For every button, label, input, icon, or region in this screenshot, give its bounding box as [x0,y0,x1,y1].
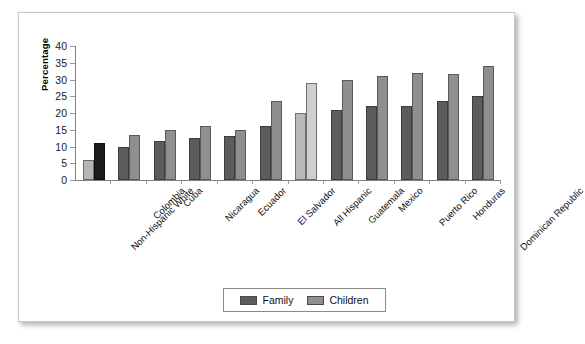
x-axis-tick [146,180,147,184]
y-axis-tick [70,63,75,64]
x-axis-tick [181,180,182,184]
x-axis-label: Puerto Rico [437,185,480,228]
y-axis-tick [70,46,75,47]
y-axis-tick-label: 20 [55,107,67,119]
y-axis-title: Percentage [39,38,50,91]
x-axis-tick [323,180,324,184]
y-axis-tick-label: 5 [61,157,67,169]
bar-children [271,101,282,180]
bar-family [189,138,200,180]
bar-group [182,46,217,180]
y-axis-tick [70,80,75,81]
bar-children [165,130,176,180]
x-axis-tick [500,180,501,184]
bar-children [129,135,140,180]
y-axis-tick-label: 15 [55,124,67,136]
bar-children [200,126,211,180]
x-axis-tick [110,180,111,184]
bar-children [412,73,423,180]
family-swatch-icon [240,296,257,305]
bar-group [218,46,253,180]
y-axis-tick-label: 0 [61,174,67,186]
bar-family [366,106,377,180]
bar-children [483,66,494,180]
x-axis-tick [394,180,395,184]
y-axis-tick-label: 10 [55,141,67,153]
bar-group [111,46,146,180]
bar-children [342,80,353,181]
x-axis-tick [358,180,359,184]
bar-group [76,46,111,180]
bar-children [94,143,105,180]
y-axis-tick-label: 25 [55,90,67,102]
bar-children [306,83,317,180]
y-axis-tick [70,113,75,114]
bar-family [437,101,448,180]
bar-family [154,141,165,180]
y-axis-tick [70,163,75,164]
children-swatch-icon [307,296,324,305]
bar-group [395,46,430,180]
bar-children [377,76,388,180]
x-axis-label: All Hispanic [331,185,374,228]
y-axis-tick [70,96,75,97]
x-axis-tick [465,180,466,184]
y-axis-tick-label: 30 [55,74,67,86]
x-axis-tick [217,180,218,184]
bar-family [472,96,483,180]
bar-group [253,46,288,180]
plot-area: 0510152025303540 [75,46,500,180]
bar-family [260,126,271,180]
y-axis-tick-label: 40 [55,40,67,52]
bar-group [466,46,501,180]
x-axis-tick [429,180,430,184]
chart-legend: Family Children [223,288,386,312]
bar-children [235,130,246,180]
bar-group [359,46,394,180]
chart-figure: Percentage 0510152025303540 Non-Hispanic… [18,12,515,322]
x-axis-label: Ecuador [256,185,289,218]
legend-label-family: Family [262,294,293,306]
x-axis-label: Nicaragua [223,185,261,223]
bar-children [448,74,459,180]
x-axis-category-labels: Non-Hispanic WhiteColombiaCubaNicaraguaE… [76,185,501,275]
x-axis-tick [252,180,253,184]
bar-family [331,110,342,180]
legend-label-children: Children [329,294,368,306]
bar-family [224,136,235,180]
y-axis-tick [70,130,75,131]
x-axis-tick [288,180,289,184]
legend-item-family: Family [240,294,293,306]
bar-family [83,160,94,180]
bar-family [295,113,306,180]
x-axis-label: Dominican Republic [518,185,585,253]
bar-group [324,46,359,180]
legend-item-children: Children [307,294,368,306]
bar-group [430,46,465,180]
y-axis-tick [70,147,75,148]
bar-groups [76,46,501,180]
bar-group [289,46,324,180]
bar-family [118,147,129,181]
y-axis-tick-label: 35 [55,57,67,69]
y-axis-tick [70,180,75,181]
bar-family [401,106,412,180]
bar-group [147,46,182,180]
